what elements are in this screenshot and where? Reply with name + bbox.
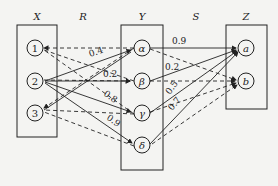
svg-text:γ: γ bbox=[139, 108, 145, 119]
svg-text:1: 1 bbox=[32, 43, 38, 54]
node-x2: 2 bbox=[27, 73, 43, 89]
node-x3: 3 bbox=[27, 105, 43, 121]
set-box-z bbox=[226, 25, 267, 109]
node-y-gamma: γ bbox=[134, 105, 150, 121]
svg-text:α: α bbox=[139, 43, 146, 54]
set-label-y: Y bbox=[139, 11, 147, 22]
relation-label-s: S bbox=[193, 11, 200, 22]
weight-alpha-a: 0.9 bbox=[172, 36, 187, 46]
relation-label-r: R bbox=[78, 11, 87, 22]
set-label-x: X bbox=[32, 11, 41, 22]
node-y-beta: β bbox=[134, 73, 150, 89]
node-x1: 1 bbox=[27, 40, 43, 56]
svg-text:δ: δ bbox=[139, 140, 145, 151]
node-y-alpha: α bbox=[134, 40, 150, 56]
svg-text:2: 2 bbox=[32, 76, 38, 87]
svg-text:b: b bbox=[243, 76, 249, 87]
set-label-z: Z bbox=[242, 11, 251, 22]
svg-text:a: a bbox=[243, 43, 249, 54]
svg-text:β: β bbox=[138, 76, 145, 87]
weight-delta-a: 0.7 bbox=[166, 95, 183, 113]
weight-beta-a: 0.2 bbox=[165, 62, 179, 72]
fuzzy-relation-diagram: X R Y S Z 1 2 bbox=[0, 0, 278, 186]
weight-2-beta: 0.2 bbox=[103, 69, 117, 79]
svg-text:3: 3 bbox=[32, 108, 38, 119]
node-z-b: b bbox=[238, 73, 254, 89]
weight-2-alpha: 0.4 bbox=[88, 45, 105, 59]
node-z-a: a bbox=[238, 40, 254, 56]
node-y-delta: δ bbox=[134, 137, 150, 153]
